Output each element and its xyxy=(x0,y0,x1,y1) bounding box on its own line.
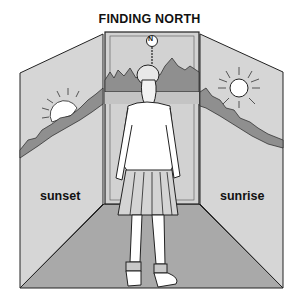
sunset-label: sunset xyxy=(40,189,80,203)
room-illustration xyxy=(0,0,299,305)
sunrise-label: sunrise xyxy=(220,189,264,203)
north-marker-label: N xyxy=(148,35,153,42)
